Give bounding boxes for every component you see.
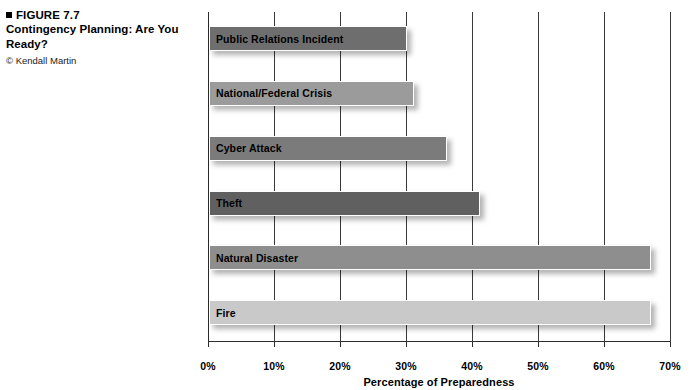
bar-row: Natural Disaster — [209, 231, 671, 286]
x-axis-line — [208, 341, 670, 342]
bar[interactable]: National/Federal Crisis — [209, 81, 414, 106]
x-tick-label: 0% — [188, 360, 228, 372]
x-axis-tick — [472, 342, 473, 347]
bar-row: Cyber Attack — [209, 122, 671, 177]
figure-credit: © Kendall Martin — [6, 54, 192, 67]
bar-row: National/Federal Crisis — [209, 67, 671, 122]
bar[interactable]: Cyber Attack — [209, 136, 447, 161]
x-tick-label: 20% — [320, 360, 360, 372]
bar-category-label: Natural Disaster — [210, 252, 298, 264]
x-tick-label: 30% — [386, 360, 426, 372]
x-axis-tick — [406, 342, 407, 347]
plot-area: FireNatural DisasterTheftCyber AttackNat… — [208, 12, 670, 342]
x-tick-label: 70% — [650, 360, 690, 372]
bar-category-label: Public Relations Incident — [210, 33, 343, 45]
bar-category-label: Cyber Attack — [210, 142, 282, 154]
bar[interactable]: Theft — [209, 191, 480, 216]
black-square-icon — [6, 12, 12, 18]
bar-row: Fire — [209, 286, 671, 341]
x-tick-label: 50% — [518, 360, 558, 372]
x-axis-tick — [604, 342, 605, 347]
bar-row: Theft — [209, 177, 671, 232]
x-tick-label: 40% — [452, 360, 492, 372]
bar-category-label: Theft — [210, 197, 242, 209]
x-axis-tick — [274, 342, 275, 347]
figure-label: FIGURE 7.7 — [16, 9, 80, 21]
bar-category-label: Fire — [210, 307, 236, 319]
x-axis-tick — [670, 342, 671, 347]
bar-row: Public Relations Incident — [209, 12, 671, 67]
bar[interactable]: Public Relations Incident — [209, 26, 407, 51]
bar[interactable]: Natural Disaster — [209, 245, 651, 270]
bar-chart: FireNatural DisasterTheftCyber AttackNat… — [208, 12, 670, 342]
bar-series: FireNatural DisasterTheftCyber AttackNat… — [209, 12, 670, 341]
bar[interactable]: Fire — [209, 300, 651, 325]
x-axis-tick — [208, 342, 209, 347]
bar-category-label: National/Federal Crisis — [210, 87, 332, 99]
x-axis-title: Percentage of Preparedness — [208, 376, 670, 388]
x-axis-tick — [538, 342, 539, 347]
figure-label-line: FIGURE 7.7 — [6, 8, 192, 22]
figure-caption: FIGURE 7.7 Contingency Planning: Are You… — [6, 8, 192, 67]
x-tick-label: 10% — [254, 360, 294, 372]
figure-title: Contingency Planning: Are You Ready? — [6, 22, 192, 51]
x-axis-tick — [340, 342, 341, 347]
x-tick-label: 60% — [584, 360, 624, 372]
